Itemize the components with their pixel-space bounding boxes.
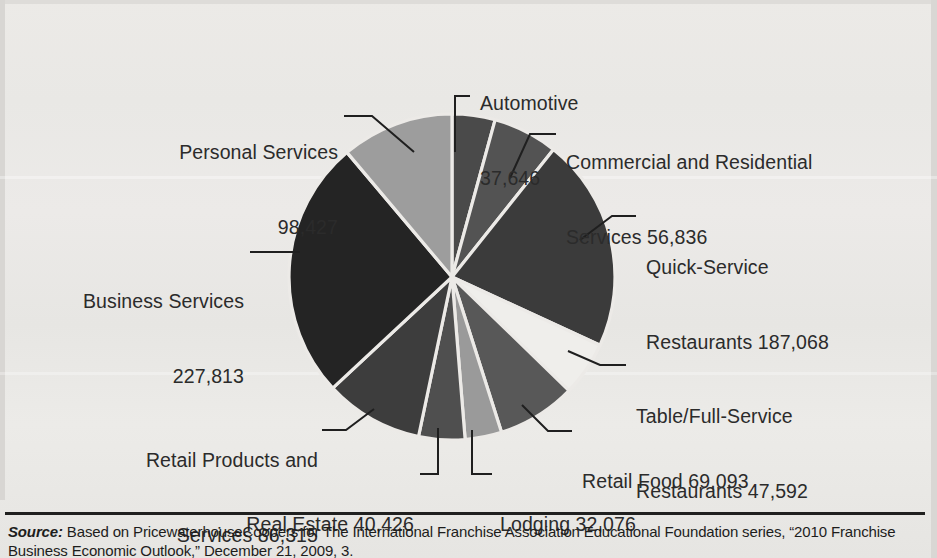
label-quick-service-line1: Quick-Service <box>646 255 829 280</box>
label-automotive: Automotive 37,646 <box>480 41 579 241</box>
label-quick-service-line2: Restaurants 187,068 <box>646 330 829 355</box>
label-personal-services: Personal Services 98,427 <box>110 90 338 290</box>
label-personal-services-line1: Personal Services <box>110 140 338 165</box>
source-body: Based on PricewaterhouseCoopers for The … <box>8 523 895 558</box>
pie-chart-figure: Automotive 37,646 Commercial and Residen… <box>0 0 937 500</box>
label-commercial-line1: Commercial and Residential <box>566 150 812 175</box>
source-text: Source: Based on PricewaterhouseCoopers … <box>8 522 926 558</box>
label-retail-products-line1: Retail Products and <box>60 448 318 473</box>
horizontal-rule <box>5 512 925 515</box>
label-automotive-line1: Automotive <box>480 91 579 116</box>
label-business-services-line1: Business Services <box>16 289 244 314</box>
label-business-services-line2: 227,813 <box>16 364 244 389</box>
source-label: Source: <box>8 523 63 540</box>
label-automotive-line2: 37,646 <box>480 166 579 191</box>
source-footnote: Source: Based on PricewaterhouseCoopers … <box>0 500 937 558</box>
label-personal-services-line2: 98,427 <box>110 215 338 240</box>
